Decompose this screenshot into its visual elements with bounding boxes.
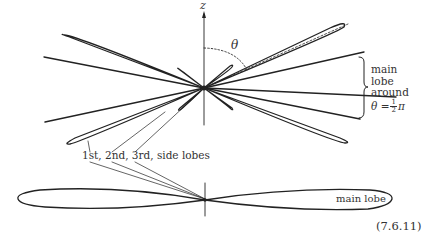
- theta-label: θ: [231, 40, 238, 52]
- leader-bottom-3: [135, 162, 205, 199]
- annotation-line-1: main: [371, 64, 409, 76]
- equation-prefix: θ =: [371, 99, 389, 111]
- bottom-origin-node: [203, 198, 207, 202]
- lobe-edge-lower-left: [45, 88, 204, 122]
- leader-bottom-1: [90, 162, 205, 199]
- main-lobe-annotation: main lobe around θ =12π: [371, 64, 409, 114]
- main-lobe-upper-left: [62, 34, 204, 88]
- main-lobe-lower-right: [204, 88, 348, 143]
- lobe-edge-right: [204, 88, 396, 97]
- bottom-main-lobe-left: [18, 189, 205, 209]
- main-lobe-lower-left: [67, 88, 204, 144]
- equation-suffix: π: [398, 99, 405, 111]
- main-lobe-upper-right: [204, 24, 345, 88]
- direction-line: [204, 24, 348, 88]
- z-axis-label: z: [200, 0, 206, 12]
- lobe-edge-lower-right: [204, 88, 360, 119]
- theta-arc: [204, 48, 247, 70]
- lobe-edge-upper-left: [44, 57, 204, 88]
- origin-node: [202, 86, 207, 91]
- side-lobes-label: 1st, 2nd, 3rd, side lobes: [82, 150, 210, 162]
- z-axis-arrowhead: [202, 11, 206, 18]
- fraction: 12: [390, 99, 396, 114]
- annotation-equation: θ =12π: [371, 99, 409, 114]
- equation-number: (7.6.11): [376, 219, 422, 233]
- annotation-line-3: around: [371, 87, 409, 99]
- main-lobe-brace: [359, 57, 368, 118]
- bottom-main-lobe-label: main lobe: [336, 193, 386, 205]
